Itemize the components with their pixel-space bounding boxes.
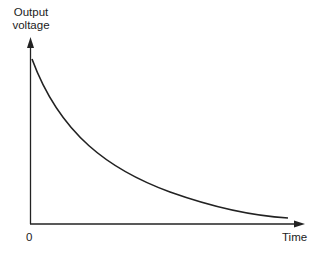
y-axis-arrow-icon	[27, 37, 34, 48]
origin-label: 0	[26, 231, 32, 243]
decay-diagram	[0, 0, 323, 256]
x-axis-label: Time	[282, 231, 307, 243]
x-axis-arrow-icon	[294, 221, 305, 228]
decay-curve	[32, 59, 288, 218]
